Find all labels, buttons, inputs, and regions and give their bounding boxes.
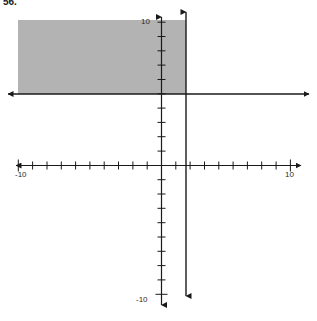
x-axis-label-positive: 10 [285,170,294,179]
shaded-solution-region [18,20,186,94]
y-axis-label-negative: -10 [136,295,148,304]
coordinate-plane-figure: 56. [0,0,317,321]
y-axis-label-positive: 10 [141,17,150,26]
x-axis-label-negative: -10 [15,170,27,179]
graph-svg [0,0,317,321]
